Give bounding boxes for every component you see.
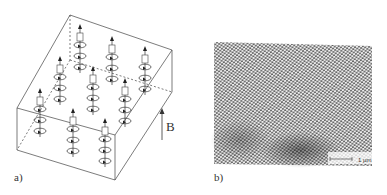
vortex-icon bbox=[34, 88, 46, 137]
vortex-icon bbox=[54, 56, 66, 105]
vortex-icon bbox=[106, 36, 118, 85]
vortex-icon bbox=[74, 24, 86, 73]
vortex-icon bbox=[99, 118, 111, 167]
vortex-icon bbox=[139, 46, 151, 95]
vortex-icon bbox=[87, 66, 99, 115]
field-arrow-icon bbox=[160, 108, 165, 140]
panel-a-label: a) bbox=[14, 171, 23, 183]
figure-canvas bbox=[0, 0, 387, 195]
vortex-icon bbox=[119, 78, 131, 127]
scale-bar-label: 1 µm bbox=[358, 157, 371, 163]
vortex-lattice-micrograph bbox=[210, 42, 372, 168]
vortex-group bbox=[34, 24, 151, 167]
field-label: B bbox=[166, 119, 175, 135]
vortex-icon bbox=[67, 108, 79, 157]
panel-b-label: b) bbox=[214, 171, 223, 183]
